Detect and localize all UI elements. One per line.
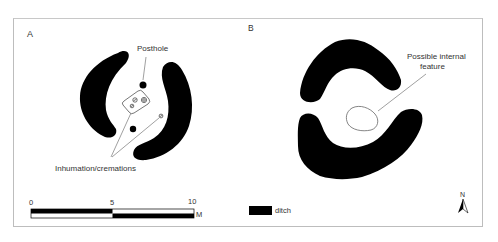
ditch-b-upper [300, 39, 401, 102]
site-plan-diagram: A Posthole Inhumation/cremations 0 5 10 … [0, 0, 498, 242]
internal-feature-label-2: feature [420, 62, 445, 71]
ditch-a-left [80, 51, 129, 138]
scale-tick-10: 10 [188, 197, 196, 206]
posthole-north [140, 82, 147, 89]
scale-tick-0: 0 [29, 198, 33, 207]
burials-label: Inhumation/cremations [55, 164, 136, 173]
scale-unit: M [196, 210, 202, 219]
internal-feature-label-1: Possible internal [407, 52, 466, 61]
scale-bar [31, 209, 194, 218]
panel-a-label: A [27, 29, 33, 39]
legend-ditch-label: ditch [275, 206, 291, 215]
north-arrow-label: N [460, 191, 465, 198]
legend-ditch-swatch [249, 206, 272, 215]
internal-feature-outline [346, 106, 377, 130]
scale-tick-5: 5 [110, 198, 114, 207]
ditch-a-right [133, 62, 192, 160]
ditch-b-lower [298, 109, 423, 179]
posthole-label: Posthole [137, 44, 169, 53]
panel-b-label: B [248, 23, 254, 33]
posthole-south [130, 126, 136, 132]
north-arrow-icon [458, 199, 468, 213]
